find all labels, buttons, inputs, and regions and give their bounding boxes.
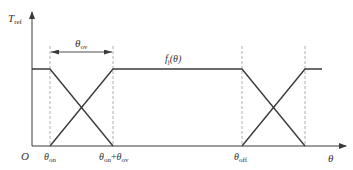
torque-profile bbox=[32, 69, 322, 146]
previous-phase-curve bbox=[32, 69, 113, 146]
y-axis-label: Tref bbox=[8, 12, 23, 26]
tick-label-theta-off: θoff bbox=[234, 151, 248, 164]
next-phase-curve bbox=[242, 69, 322, 146]
tick-label-theta-on: θon bbox=[44, 151, 56, 164]
overlap-label: θov bbox=[75, 37, 88, 51]
torque-overlap-diagram: Tref O θ θov fj(θ) θon θon+θov θoff bbox=[0, 0, 353, 170]
current-phase-curve bbox=[50, 69, 305, 146]
x-axis-label: θ bbox=[328, 152, 334, 164]
tick-label-theta-on-plus-ov: θon+θov bbox=[99, 151, 129, 164]
curve-label: fj(θ) bbox=[165, 53, 182, 66]
origin-label: O bbox=[21, 150, 29, 162]
